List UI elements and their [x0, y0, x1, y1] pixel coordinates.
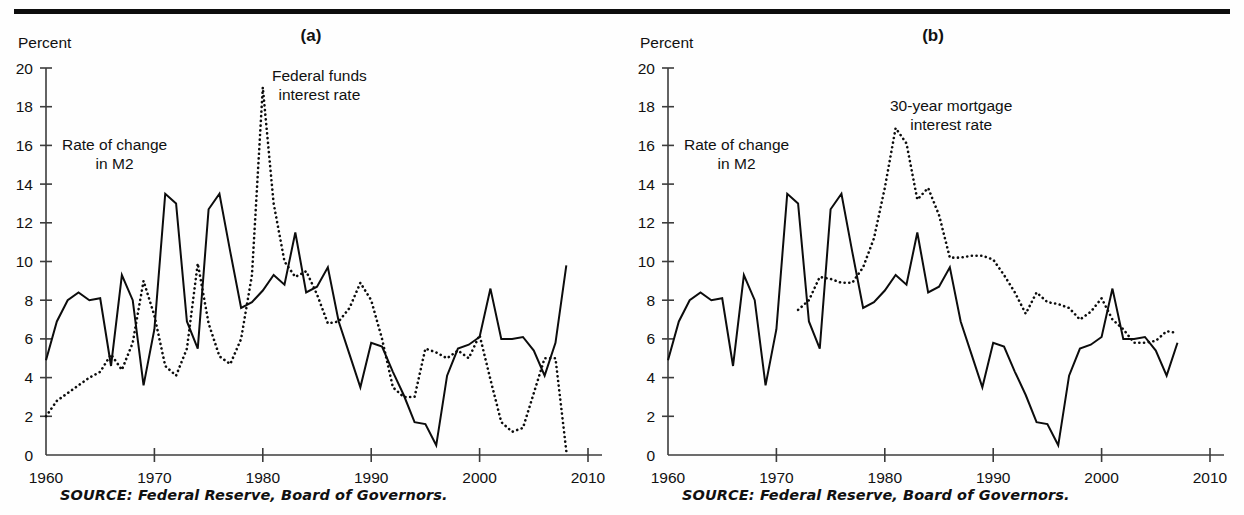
x-tick-label: 1970 [137, 469, 172, 486]
y-tick-label: 18 [16, 98, 33, 115]
panel-a-m2-annotation: Rate of change in M2 [62, 135, 167, 173]
y-tick-label: 12 [638, 214, 655, 231]
panel-b: (b) Percent 0246810121416182019601970198… [622, 0, 1244, 515]
y-tick-label: 2 [24, 408, 33, 425]
y-tick-label: 16 [638, 137, 655, 154]
rate-series-line [798, 128, 1177, 343]
x-tick-label: 2010 [1193, 469, 1228, 486]
y-tick-label: 20 [16, 60, 34, 77]
y-tick-label: 20 [638, 60, 656, 77]
panel-b-source-note: SOURCE: Federal Reserve, Board of Govern… [682, 487, 1070, 503]
y-tick-label: 4 [646, 369, 655, 386]
x-tick-label: 1960 [29, 469, 64, 486]
y-tick-label: 4 [24, 369, 33, 386]
y-tick-label: 14 [16, 176, 34, 193]
y-tick-label: 0 [24, 447, 33, 464]
y-tick-label: 14 [638, 176, 656, 193]
panel-a-rate-annotation: Federal funds interest rate [272, 66, 367, 104]
panel-a: (a) Percent 0246810121416182019601970198… [0, 0, 622, 515]
y-tick-label: 16 [16, 137, 33, 154]
y-tick-label: 8 [646, 292, 655, 309]
x-tick-label: 1990 [976, 469, 1011, 486]
y-tick-label: 18 [638, 98, 655, 115]
y-tick-label: 0 [646, 447, 655, 464]
panel-b-plot: 0246810121416182019601970198019902000201… [622, 0, 1244, 515]
x-tick-label: 2010 [571, 469, 606, 486]
x-tick-label: 2000 [462, 469, 497, 486]
x-tick-label: 1980 [868, 469, 903, 486]
y-tick-label: 10 [16, 253, 34, 270]
x-tick-label: 1960 [651, 469, 686, 486]
x-tick-label: 1970 [759, 469, 794, 486]
figure-container: (a) Percent 0246810121416182019601970198… [0, 0, 1244, 515]
x-tick-label: 1980 [246, 469, 281, 486]
panel-b-m2-annotation: Rate of change in M2 [684, 135, 789, 173]
y-tick-label: 10 [638, 253, 656, 270]
panel-b-rate-annotation: 30-year mortgage interest rate [890, 96, 1012, 134]
y-tick-label: 6 [24, 330, 33, 347]
panel-a-source-note: SOURCE: Federal Reserve, Board of Govern… [60, 487, 448, 503]
x-tick-label: 2000 [1084, 469, 1119, 486]
m2-series-line [46, 194, 566, 446]
y-tick-label: 8 [24, 292, 33, 309]
y-tick-label: 12 [16, 214, 33, 231]
y-tick-label: 2 [646, 408, 655, 425]
x-tick-label: 1990 [354, 469, 389, 486]
m2-series-line [668, 194, 1177, 446]
y-tick-label: 6 [646, 330, 655, 347]
